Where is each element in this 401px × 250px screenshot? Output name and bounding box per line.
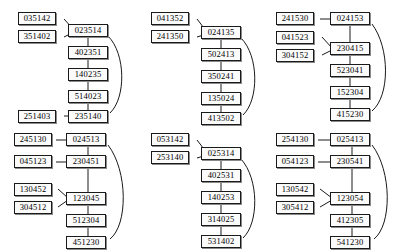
diagram-5: 053142 253140 025314 402531 140253 31402… [141,127,275,250]
side-node: 130542 [276,183,314,196]
chain-node: 024513 [66,133,106,146]
chain-node: 135024 [201,92,241,105]
chain-node: 412305 [330,214,370,227]
chain-node: 402531 [201,169,241,182]
diagram-1: 035142 351402 023514 402351 140235 51402… [8,6,142,129]
side-node: 035142 [18,12,56,25]
side-node: 241350 [151,30,189,43]
chain-node: 235140 [68,110,108,123]
side-node: 053142 [151,133,189,146]
chain-node: 230415 [330,42,370,55]
side-node: 253140 [151,151,189,164]
chain-node: 541230 [330,236,370,249]
chain-node: 350241 [201,70,241,83]
chain-node: 023514 [68,24,108,37]
side-node: 254130 [276,133,314,146]
diagram-6: 254130 054123 130542 305412 025413 23054… [270,127,401,250]
chain-node: 502413 [201,48,241,61]
chain-node: 025413 [330,133,370,146]
chain-node: 314025 [201,213,241,226]
side-node: 041352 [151,12,189,25]
side-node: 304512 [14,201,52,214]
side-node: 304152 [276,49,314,62]
side-node: 041523 [276,31,314,44]
chain-node: 531402 [201,235,241,248]
chain-node: 140253 [201,191,241,204]
chain-node: 230541 [330,155,370,168]
chain-node: 523041 [330,64,370,77]
chain-node: 123054 [330,192,370,205]
diagram-2: 041352 241350 024135 502413 350241 13502… [141,6,275,129]
side-node: 241530 [276,12,314,25]
side-node: 351402 [18,30,56,43]
chain-node: 025314 [201,147,241,160]
chain-node: 415230 [330,108,370,121]
chain-node: 402351 [68,46,108,59]
chain-node: 123045 [66,192,106,205]
chain-node: 413502 [201,112,241,125]
chain-node: 230451 [66,155,106,168]
chain-node: 514023 [68,90,108,103]
chain-node: 024135 [201,26,241,39]
side-node: 251403 [18,110,56,123]
side-node: 245130 [14,133,52,146]
chain-node: 024153 [330,12,370,25]
side-node: 130452 [14,183,52,196]
side-node: 305412 [276,201,314,214]
chain-node: 152304 [330,86,370,99]
diagram-4: 245130 045123 130452 304512 024513 23045… [8,127,142,250]
chain-node: 512304 [66,214,106,227]
diagram-3: 241530 041523 304152 024153 230415 52304… [270,6,401,129]
chain-node: 451230 [66,236,106,249]
side-node: 045123 [14,155,52,168]
chain-node: 140235 [68,68,108,81]
side-node: 054123 [276,155,314,168]
